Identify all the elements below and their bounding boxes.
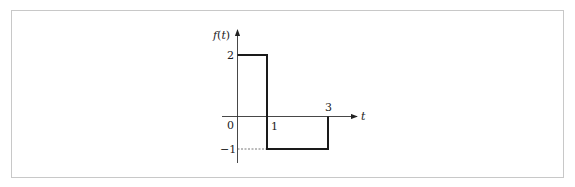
x-tick-1-label: 1 (271, 120, 278, 133)
y-tick-2-label: 2 (227, 49, 234, 62)
step-function-plot: f(t) t 0 1 3 2 −1 (0, 0, 575, 187)
step-function-line (238, 55, 329, 149)
y-axis-label: f(t) (212, 29, 230, 42)
x-axis-label: t (361, 110, 366, 123)
origin-label: 0 (227, 119, 234, 132)
y-tick-neg1-label: −1 (220, 143, 236, 156)
x-tick-3-label: 3 (325, 101, 332, 114)
